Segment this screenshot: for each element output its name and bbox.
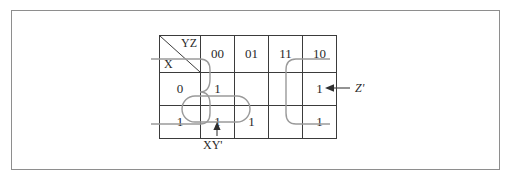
kmap-cell-r1-c00: 1 [201, 106, 235, 139]
kmap-cell-r0-c11 [269, 73, 303, 106]
kmap-corner-header: YZ X [160, 36, 201, 73]
figure-frame: YZ X 00 01 11 10 0 1 1 1 1 1 1 [11, 10, 500, 170]
kmap-cell-r1-c01: 1 [235, 106, 269, 139]
kmap-column-header-00: 00 [201, 36, 235, 73]
kmap-header-row: YZ X 00 01 11 10 [160, 36, 337, 73]
kmap-column-header-10: 10 [303, 36, 337, 73]
kmap-column-header-11: 11 [269, 36, 303, 73]
kmap-cell-r0-c00: 1 [201, 73, 235, 106]
kmap-cell-r1-c10: 1 [303, 106, 337, 139]
kmap-cell-r0-c01 [235, 73, 269, 106]
karnaugh-map-table: YZ X 00 01 11 10 0 1 1 1 1 1 1 [159, 35, 337, 139]
kmap-cell-r0-c10: 1 [303, 73, 337, 106]
kmap-row: 1 1 1 1 [160, 106, 337, 139]
kmap-column-header-01: 01 [235, 36, 269, 73]
kmap-row: 0 1 1 [160, 73, 337, 106]
row-variable-label: X [164, 58, 173, 70]
kmap-row-header-0: 0 [160, 73, 201, 106]
annotation-label-xyprime: XY' [203, 138, 223, 153]
kmap-cell-r1-c11 [269, 106, 303, 139]
column-variable-label: YZ [181, 37, 197, 49]
annotation-label-zprime: Z' [355, 81, 364, 96]
kmap-row-header-1: 1 [160, 106, 201, 139]
